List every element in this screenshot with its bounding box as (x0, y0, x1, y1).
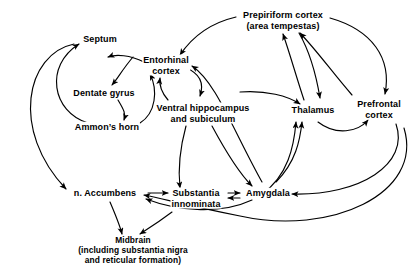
arrow-substantia-innominata-to-thalamus (262, 122, 296, 194)
node-label-sub: innominata (171, 198, 220, 209)
arrow-septum-to-n-accumbens (30, 44, 74, 189)
arrow-entorhinal-cortex-to-septum (108, 55, 144, 62)
node-substantia-innominata[interactable]: Substantia innominata (170, 188, 221, 209)
node-label: Prefrontal (357, 99, 401, 110)
connection-arrows-layer (0, 0, 419, 276)
node-label-sub2: and reticular formation) (78, 255, 188, 265)
node-label: Entorhinal (143, 55, 189, 66)
arrow-prefrontal-cortex-to-prepiriform-cortex (300, 33, 352, 95)
node-label: Substantia (171, 188, 220, 199)
arrow-thalamus-to-prepiriform-cortex (283, 34, 304, 100)
arrow-prepiriform-cortex-to-entorhinal-cortex (180, 17, 236, 55)
node-dentate-gyrus[interactable]: Dentate gyrus (72, 88, 135, 99)
arrow-amygdala-to-entorhinal-cortex (192, 66, 262, 182)
arrow-dentate-gyrus-to-ammons-horn (118, 100, 125, 120)
arrow-ventral-hippocampus-to-entorhinal-cortex (160, 78, 168, 100)
arrow-ventral-hippocampus-to-amygdala (212, 126, 252, 186)
circuit-diagram-figure: Septum Prepiriform cortex (area tempesta… (0, 0, 419, 276)
node-midbrain[interactable]: Midbrain (including substantia nigra and… (77, 235, 189, 265)
arrow-substantia-innominata-to-midbrain (140, 212, 172, 234)
node-label: Amygdala (246, 188, 290, 199)
node-label-sub: (area tempestas) (243, 20, 323, 31)
node-n-accumbens[interactable]: n. Accumbens (73, 188, 137, 199)
node-label: n. Accumbens (74, 188, 136, 199)
node-label: Thalamus (292, 105, 335, 116)
node-prepiriform-cortex[interactable]: Prepiriform cortex (area tempestas) (242, 10, 324, 31)
arrow-prepiriform-cortex-to-prefrontal-cortex (330, 18, 386, 94)
node-label-sub: (including substantia nigra (78, 245, 188, 255)
arrow-ammons-horn-to-entorhinal-cortex (140, 74, 155, 123)
node-amygdala[interactable]: Amygdala (245, 188, 291, 199)
node-label: Dentate gyrus (73, 88, 134, 99)
node-label-sub: cortex (143, 65, 189, 76)
node-label: Septum (83, 34, 117, 45)
arrow-n-accumbens-to-midbrain (110, 202, 122, 234)
node-label-sub: cortex (357, 109, 401, 120)
node-ammons-horn[interactable]: Ammon’s horn (74, 122, 140, 133)
node-label: Ventral hippocampus (157, 103, 250, 114)
arrow-septum-to-dentate-gyrus (112, 57, 133, 85)
arrow-amygdala-to-thalamus (276, 122, 302, 182)
node-thalamus[interactable]: Thalamus (291, 105, 336, 116)
arrow-thalamus-to-prefrontal-cortex (318, 120, 368, 131)
node-septum[interactable]: Septum (82, 34, 118, 45)
node-label: Prepiriform cortex (243, 10, 323, 21)
node-entorhinal-cortex[interactable]: Entorhinal cortex (142, 55, 190, 76)
node-label: Ammon’s horn (75, 122, 139, 133)
node-ventral-hippocampus[interactable]: Ventral hippocampus and subiculum (156, 103, 251, 124)
arrow-prefrontal-cortex-to-amygdala (292, 124, 398, 194)
arrow-ventral-hippocampus-to-substantia-innominata (179, 126, 186, 188)
node-label: Midbrain (78, 235, 188, 245)
node-prefrontal-cortex[interactable]: Prefrontal cortex (356, 99, 402, 120)
arrow-ammons-horn-to-septum (56, 44, 88, 123)
node-label-sub: and subiculum (157, 113, 250, 124)
